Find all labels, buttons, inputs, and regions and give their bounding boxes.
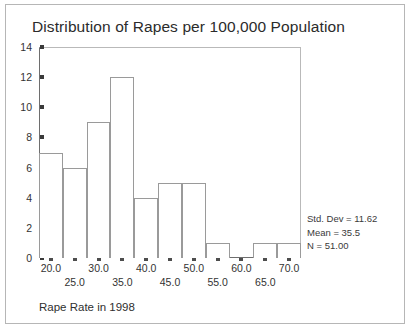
x-tick-label: 65.0	[255, 276, 275, 288]
y-tick-label: 6	[26, 162, 32, 174]
x-tick-mark	[144, 258, 148, 261]
y-tick-label: 10	[20, 101, 32, 113]
x-tick-mark	[97, 258, 101, 261]
x-axis-title: Rape Rate in 1998	[39, 301, 135, 313]
y-tick-mark	[40, 45, 44, 49]
x-tick-mark	[216, 258, 220, 261]
n-text: N = 51.00	[307, 239, 377, 253]
histogram-bar	[182, 183, 206, 258]
x-tick-mark	[168, 258, 172, 261]
histogram-bar	[134, 198, 158, 258]
histogram-bar	[87, 122, 111, 258]
y-tick-mark	[40, 105, 44, 109]
x-tick-label: 70.0	[279, 262, 299, 274]
mean-text: Mean = 35.5	[307, 226, 377, 240]
x-tick-label: 45.0	[160, 276, 180, 288]
x-tick-mark	[73, 258, 77, 261]
histogram-bar	[110, 77, 134, 258]
histogram-bar	[63, 168, 87, 258]
y-tick-label: 4	[26, 192, 32, 204]
x-tick-label: 50.0	[184, 262, 204, 274]
y-tick-label: 12	[20, 71, 32, 83]
x-tick-label: 40.0	[136, 262, 156, 274]
x-tick-mark	[239, 258, 243, 261]
histogram-bar	[206, 243, 230, 258]
x-tick-mark	[263, 258, 267, 261]
x-tick-mark	[192, 258, 196, 261]
x-tick-mark	[49, 258, 53, 261]
x-tick-label: 35.0	[112, 276, 132, 288]
x-tick-mark	[287, 258, 291, 261]
y-tick-label: 8	[26, 131, 32, 143]
y-tick-label: 2	[26, 222, 32, 234]
y-tick-label: 0	[26, 252, 32, 264]
y-tick-label: 14	[20, 41, 32, 53]
y-tick-mark	[40, 75, 44, 79]
histogram-bar	[39, 153, 63, 259]
chart-figure: Distribution of Rapes per 100,000 Popula…	[5, 4, 405, 324]
histogram-bar	[158, 183, 182, 258]
chart-title: Distribution of Rapes per 100,000 Popula…	[32, 18, 345, 36]
plot-area: 02468101214	[39, 47, 301, 258]
histogram-bar	[253, 243, 277, 258]
x-tick-label: 20.0	[41, 262, 61, 274]
x-tick-label: 25.0	[65, 276, 85, 288]
std-dev-text: Std. Dev = 11.62	[307, 212, 377, 226]
histogram-bar	[277, 243, 301, 258]
x-tick-label: 60.0	[231, 262, 251, 274]
x-tick-mark	[120, 258, 124, 261]
y-tick-mark	[40, 135, 44, 139]
x-tick-label: 55.0	[207, 276, 227, 288]
x-tick-label: 30.0	[88, 262, 108, 274]
statistics-annotation: Std. Dev = 11.62 Mean = 35.5 N = 51.00	[307, 212, 377, 253]
